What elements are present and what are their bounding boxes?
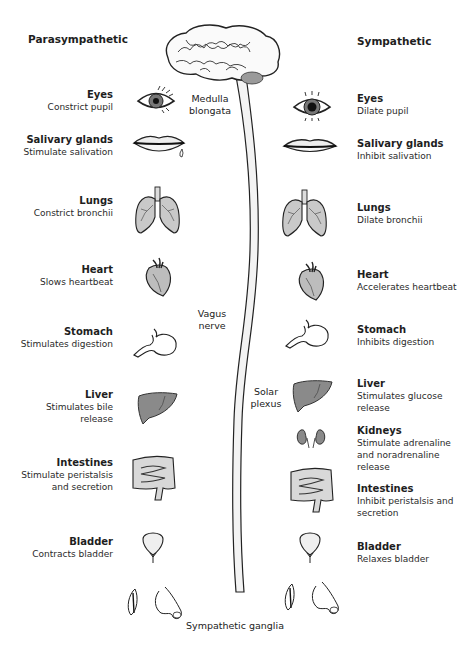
symp-intestines: IntestinesInhibit peristalsis andsecreti…	[357, 482, 454, 519]
stomach-icon	[132, 327, 180, 359]
symp-heart: HeartAccelerates heartbeat	[357, 268, 457, 293]
lungs-icon	[280, 190, 330, 238]
para-bladder: BladderContracts bladder	[32, 535, 113, 560]
vagus-nerve-label: Vagusnerve	[192, 308, 232, 332]
para-salivary-glands: Salivary glandsStimulate salivation	[24, 133, 113, 158]
para-intestines: IntestinesStimulate peristalsisand secre…	[21, 456, 113, 493]
bladder-icon	[297, 533, 323, 563]
para-eyes: EyesConstrict pupil	[48, 88, 113, 113]
intestines-icon	[285, 466, 337, 514]
lungs-icon	[133, 187, 183, 235]
lips-icon	[132, 133, 186, 161]
stomach-icon	[284, 318, 332, 350]
symp-eyes: EyesDilate pupil	[357, 92, 409, 117]
kidneys-icon	[296, 428, 326, 450]
symp-lungs: LungsDilate bronchii	[357, 201, 422, 226]
heart-icon	[296, 262, 326, 302]
heart-icon	[143, 258, 173, 298]
bladder-icon	[140, 533, 166, 563]
intestines-icon	[127, 454, 179, 502]
solar-plexus-label: Solarplexus	[246, 386, 286, 410]
eye-icon	[136, 86, 176, 114]
symp-bladder: BladderRelaxes bladder	[357, 540, 429, 565]
para-lungs: LungsConstrict bronchii	[34, 194, 113, 219]
symp-liver: LiverStimulates glucoserelease	[357, 377, 442, 414]
eye-icon	[292, 92, 332, 120]
liver-icon	[290, 378, 334, 414]
symp-salivary-glands: Salivary glandsInhibit salivation	[357, 137, 444, 162]
ganglia-icon	[125, 585, 187, 625]
sympathetic-ganglia-label: Sympathetic ganglia	[175, 620, 295, 632]
medulla-label: Medullablongata	[185, 93, 235, 117]
symp-stomach: StomachInhibits digestion	[357, 323, 434, 348]
para-liver: LiverStimulates bilerelease	[46, 388, 113, 425]
symp-kidneys: KidneysStimulate adrenalineand noradrena…	[357, 424, 451, 473]
para-stomach: StomachStimulates digestion	[21, 325, 113, 350]
para-heart: HeartSlows heartbeat	[40, 263, 113, 288]
ganglia-icon	[282, 580, 344, 620]
lips-icon	[282, 137, 338, 157]
liver-icon	[135, 390, 179, 426]
